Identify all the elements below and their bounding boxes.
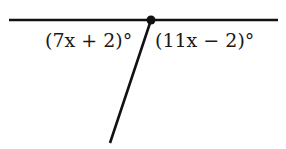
left-angle-label: (7x + 2)° xyxy=(45,31,132,50)
diagram-canvas xyxy=(0,0,286,149)
vertex-point xyxy=(147,16,156,25)
right-angle-label: (11x − 2)° xyxy=(155,31,254,50)
angle-diagram: (7x + 2)° (11x − 2)° xyxy=(0,0,286,149)
